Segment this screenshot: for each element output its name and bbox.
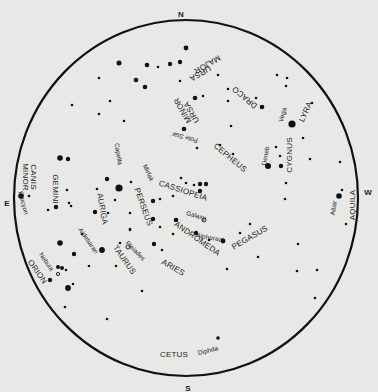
star-dot <box>72 252 76 256</box>
compass-direction-label: W <box>364 188 372 197</box>
star-dot <box>141 290 144 293</box>
star-dot <box>279 155 282 158</box>
star-dot <box>178 60 182 64</box>
star-dot <box>152 242 156 246</box>
constellation-label: CYGNUS <box>285 137 294 172</box>
star-dot <box>71 104 74 107</box>
compass-direction-label: N <box>178 10 184 19</box>
star-dot <box>227 88 230 91</box>
star-dot <box>182 127 187 132</box>
star-dot <box>159 226 162 229</box>
star-dot <box>296 270 299 273</box>
star-dot <box>28 195 31 198</box>
star-chart: URSAMAJORURSAMINORDRACOLYRACYGNUSCEPHEUS… <box>0 0 378 392</box>
star-dot <box>70 205 73 208</box>
star-dot <box>159 198 162 201</box>
star-dot <box>279 164 283 168</box>
star-dot <box>72 283 75 286</box>
constellation-label: AQUILA <box>348 189 357 220</box>
star-dot <box>184 46 189 51</box>
star-dot <box>239 232 242 235</box>
star-dot <box>227 100 230 103</box>
star-dot <box>105 177 109 181</box>
star-dot <box>339 161 342 164</box>
compass-direction-label: E <box>4 199 10 208</box>
star-dot <box>117 61 122 66</box>
star-dot <box>115 184 122 191</box>
star-dot <box>202 95 205 98</box>
star-dot <box>145 63 150 68</box>
star-dot <box>275 146 278 149</box>
star-dot <box>151 199 155 203</box>
star-dot <box>204 182 208 186</box>
star-dot <box>260 105 265 110</box>
star-dot <box>98 113 101 116</box>
star-dot <box>185 182 188 185</box>
star-dot <box>129 212 132 215</box>
constellation-label: CETUS <box>160 350 188 359</box>
star-dot <box>168 62 172 66</box>
star-dot <box>286 77 289 80</box>
star-dot <box>54 205 58 209</box>
star-dot <box>172 233 175 236</box>
star-dot <box>288 120 295 127</box>
star-dot <box>276 74 279 77</box>
star-dot <box>216 336 220 340</box>
star-dot <box>114 199 117 202</box>
star-dot <box>345 223 348 226</box>
star-dot <box>193 96 198 101</box>
star-dot <box>123 120 126 123</box>
star-dot <box>180 177 183 180</box>
star-dot <box>316 269 319 272</box>
constellation-label: GEMINI <box>51 174 60 204</box>
star-dot <box>198 182 202 186</box>
star-dot <box>297 243 300 246</box>
star-dot <box>60 266 64 270</box>
star-dot <box>217 74 220 77</box>
star-dot <box>193 184 196 187</box>
star-dot <box>96 188 99 191</box>
star-dot <box>130 181 133 184</box>
star-dot <box>109 100 112 103</box>
star-dot <box>336 193 342 199</box>
star-dot <box>93 210 97 214</box>
star-dot <box>157 66 160 69</box>
star-dot <box>285 85 288 88</box>
star-dot <box>57 155 63 161</box>
star-dot <box>115 265 118 268</box>
star-dot <box>143 85 148 90</box>
star-dot <box>57 240 63 246</box>
star-dot <box>230 125 233 128</box>
compass-direction-label: S <box>185 384 191 392</box>
star-dot <box>249 223 252 226</box>
star-dot <box>65 269 68 272</box>
star-dot <box>172 195 175 198</box>
star-dot <box>66 157 70 161</box>
star-dot <box>314 297 317 300</box>
star-dot <box>106 318 109 321</box>
star-dot <box>47 209 50 212</box>
star-dot <box>179 80 182 83</box>
star-dot <box>309 158 312 161</box>
constellation-label: MINOR <box>21 163 30 191</box>
star-dot <box>56 265 60 269</box>
star-dot <box>65 285 71 291</box>
star-dot <box>129 229 132 232</box>
star-dot <box>285 182 288 185</box>
star-dot <box>68 202 71 205</box>
star-dot <box>284 198 287 201</box>
star-dot <box>255 97 258 100</box>
star-dot <box>98 77 101 80</box>
star-dot <box>66 189 69 192</box>
star-dot <box>257 256 260 259</box>
star-dot <box>226 268 229 271</box>
star-dot <box>302 137 305 140</box>
star-dot <box>161 249 164 252</box>
star-dot <box>341 189 344 192</box>
star-dot <box>88 265 91 268</box>
star-dot <box>134 78 139 83</box>
star-dot <box>196 147 199 150</box>
star-dot <box>64 306 67 309</box>
